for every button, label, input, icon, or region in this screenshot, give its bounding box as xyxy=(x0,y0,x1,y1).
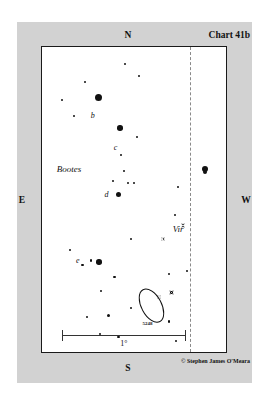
copyright-credit: © Stephen James O'Meara xyxy=(181,358,250,364)
star-marker xyxy=(90,259,92,261)
star-marker xyxy=(169,290,174,295)
star-marker xyxy=(186,270,188,272)
star-marker xyxy=(61,99,63,101)
star-marker xyxy=(69,249,71,251)
chart-title: Chart 41b xyxy=(209,30,250,40)
star-marker xyxy=(117,125,123,131)
star-marker xyxy=(130,307,132,309)
star-designation-label: c xyxy=(114,143,118,152)
star-marker xyxy=(123,170,125,172)
constellation-boundary-line xyxy=(190,47,191,352)
star-marker xyxy=(100,290,102,292)
cardinal-label-south: S xyxy=(108,364,148,374)
star-marker xyxy=(120,154,122,156)
star-marker xyxy=(84,81,86,83)
star-marker xyxy=(113,276,115,278)
star-marker xyxy=(130,238,132,240)
star-marker xyxy=(168,273,170,275)
scale-bar-rule xyxy=(62,335,185,336)
star-marker xyxy=(81,264,83,266)
cardinal-label-north: N xyxy=(108,31,148,41)
star-marker-companion xyxy=(203,170,207,174)
constellation-label: Vir xyxy=(173,224,184,234)
star-marker xyxy=(138,75,140,77)
star-marker xyxy=(107,314,110,317)
star-chart-page: N S E W Chart 41b © Stephen James O'Mear… xyxy=(0,0,269,405)
star-marker xyxy=(124,63,126,65)
cardinal-label-west: W xyxy=(238,196,254,206)
star-marker xyxy=(133,182,135,184)
star-marker xyxy=(73,115,75,117)
object-catalog-label: 5248 xyxy=(143,321,153,326)
star-marker xyxy=(168,320,170,322)
star-designation-label: d xyxy=(105,190,109,199)
constellation-label: Bootes xyxy=(57,164,82,174)
star-marker xyxy=(161,237,165,241)
star-marker xyxy=(112,180,114,182)
star-designation-label: e xyxy=(76,256,80,265)
star-designation-label: b xyxy=(91,111,95,120)
scale-bar-label: 1° xyxy=(62,339,185,348)
star-marker xyxy=(116,192,121,197)
star-marker xyxy=(127,182,129,184)
star-marker xyxy=(95,94,102,101)
star-marker xyxy=(136,136,138,138)
star-marker xyxy=(174,214,176,216)
star-marker xyxy=(96,259,102,265)
star-field-plot: 5248 BootesVirbcde 1° xyxy=(41,46,227,353)
cardinal-label-east: E xyxy=(14,196,30,206)
star-marker xyxy=(86,316,88,318)
star-marker xyxy=(177,186,179,188)
